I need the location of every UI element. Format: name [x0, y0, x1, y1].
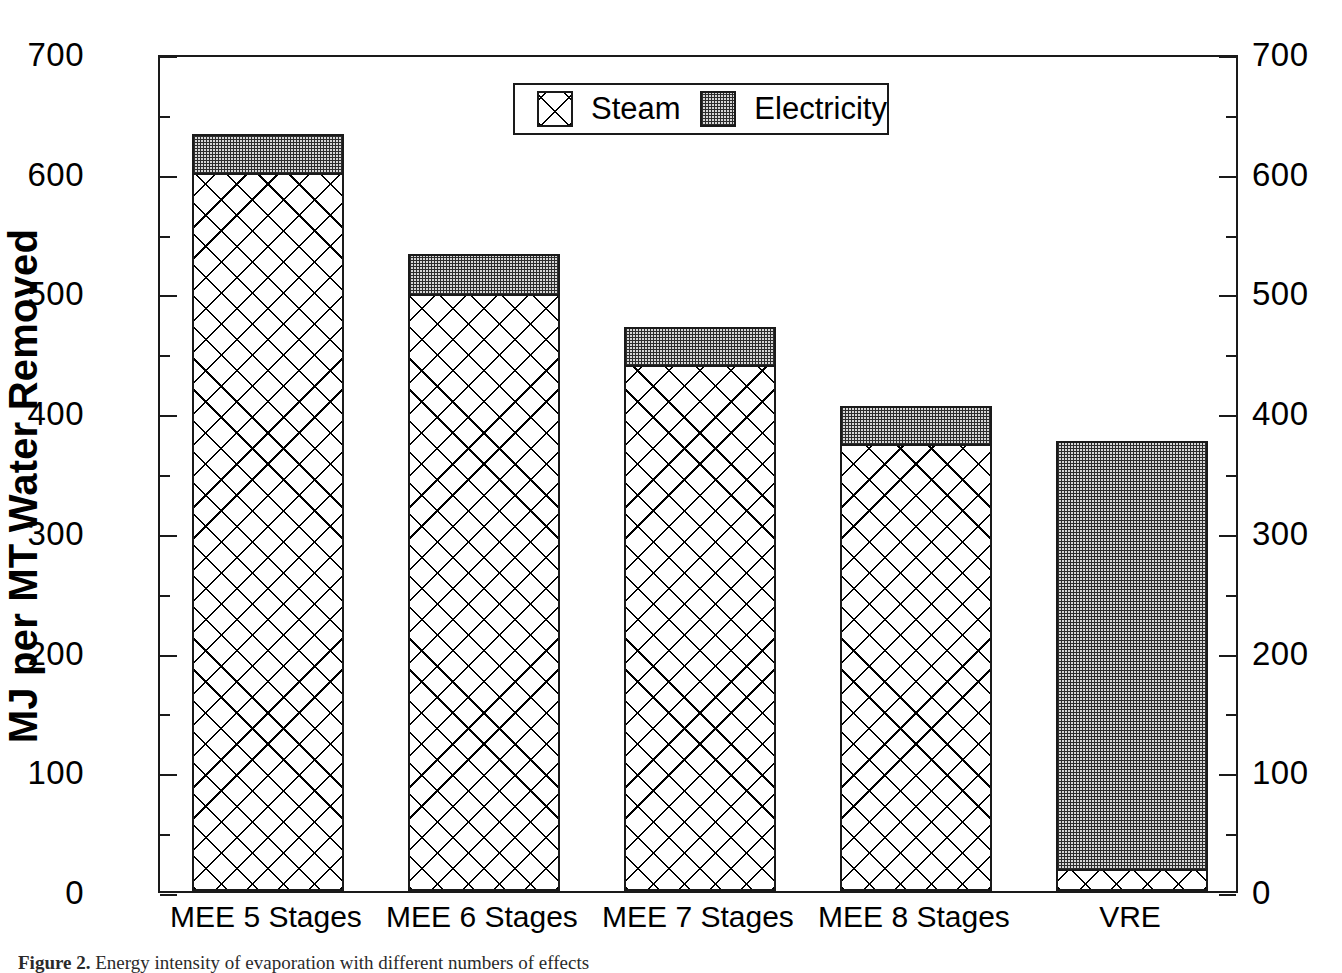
y-tick-label-left-0: 0 [65, 876, 84, 909]
y-tick-label-right-500: 500 [1252, 277, 1309, 310]
y-tick-label-right-100: 100 [1252, 756, 1309, 789]
y-major-tick-right-100 [1219, 774, 1236, 776]
y-tick-label-left-400: 400 [27, 397, 84, 430]
y-tick-label-left-500: 500 [27, 277, 84, 310]
y-major-tick-right-0 [1219, 894, 1236, 896]
y-major-tick-left-500 [160, 295, 177, 297]
y-minor-tick-left-650 [160, 116, 170, 118]
bar-segment-steam [192, 173, 343, 891]
crosshatch-swatch [537, 91, 573, 127]
x-tick-label-0: MEE 5 Stages [158, 900, 374, 934]
y-major-tick-right-700 [1219, 56, 1236, 58]
y-major-tick-right-200 [1219, 655, 1236, 657]
bar-mee-7-stages [624, 327, 775, 891]
bar-mee-8-stages [840, 406, 991, 891]
figure-caption-text: Energy intensity of evaporation with dif… [95, 952, 589, 973]
y-major-tick-right-600 [1219, 176, 1236, 178]
bar-mee-6-stages [408, 254, 559, 891]
bar-segment-steam [408, 294, 559, 891]
y-minor-tick-right-250 [1226, 595, 1236, 597]
bar-segment-electricity [192, 134, 343, 175]
x-tick-label-4: VRE [1022, 900, 1238, 934]
y-minor-tick-left-150 [160, 714, 170, 716]
y-minor-tick-left-50 [160, 834, 170, 836]
legend-label-steam: Steam [591, 91, 681, 127]
y-minor-tick-right-550 [1226, 236, 1236, 238]
y-major-tick-left-200 [160, 655, 177, 657]
y-minor-tick-right-650 [1226, 116, 1236, 118]
x-tick-label-3: MEE 8 Stages [806, 900, 1022, 934]
y-tick-label-right-600: 600 [1252, 158, 1309, 191]
legend-label-electricity: Electricity [754, 91, 887, 127]
chart-figure: MJ per MT Water Removed Steam Electricit… [0, 0, 1342, 973]
bar-segment-electricity [408, 254, 559, 296]
y-tick-label-left-700: 700 [27, 38, 84, 71]
y-minor-tick-right-450 [1226, 355, 1236, 357]
bar-segment-electricity [624, 327, 775, 367]
bar-segment-electricity [1056, 441, 1207, 871]
y-major-tick-left-600 [160, 176, 177, 178]
y-minor-tick-left-250 [160, 595, 170, 597]
y-minor-tick-right-150 [1226, 714, 1236, 716]
y-major-tick-left-0 [160, 894, 177, 896]
y-tick-label-right-0: 0 [1252, 876, 1271, 909]
y-major-tick-left-700 [160, 56, 177, 58]
y-minor-tick-right-350 [1226, 475, 1236, 477]
bar-vre [1056, 441, 1207, 891]
bar-segment-steam [1056, 869, 1207, 891]
legend-item-steam: Steam [537, 91, 681, 127]
y-tick-label-left-100: 100 [27, 756, 84, 789]
x-tick-label-1: MEE 6 Stages [374, 900, 590, 934]
figure-number: Figure 2. [18, 952, 90, 973]
bar-mee-5-stages [192, 134, 343, 891]
y-axis-title: MJ per MT Water Removed [0, 0, 51, 973]
chart-legend: Steam Electricity [513, 83, 889, 135]
y-tick-label-right-400: 400 [1252, 397, 1309, 430]
y-minor-tick-right-50 [1226, 834, 1236, 836]
stipple-swatch [700, 91, 736, 127]
bar-segment-steam [840, 444, 991, 891]
y-tick-label-left-300: 300 [27, 517, 84, 550]
y-major-tick-right-300 [1219, 535, 1236, 537]
y-tick-label-left-200: 200 [27, 637, 84, 670]
plot-area [158, 55, 1238, 893]
y-major-tick-right-400 [1219, 415, 1236, 417]
bar-segment-steam [624, 365, 775, 891]
figure-caption: Figure 2. Energy intensity of evaporatio… [18, 952, 589, 973]
y-tick-label-right-300: 300 [1252, 517, 1309, 550]
y-minor-tick-left-550 [160, 236, 170, 238]
y-major-tick-right-500 [1219, 295, 1236, 297]
y-major-tick-left-400 [160, 415, 177, 417]
bar-segment-electricity [840, 406, 991, 446]
legend-item-electricity: Electricity [700, 91, 887, 127]
y-minor-tick-left-450 [160, 355, 170, 357]
y-major-tick-left-100 [160, 774, 177, 776]
y-tick-label-left-600: 600 [27, 158, 84, 191]
x-tick-label-2: MEE 7 Stages [590, 900, 806, 934]
y-tick-label-right-200: 200 [1252, 637, 1309, 670]
y-tick-label-right-700: 700 [1252, 38, 1309, 71]
y-minor-tick-left-350 [160, 475, 170, 477]
y-major-tick-left-300 [160, 535, 177, 537]
